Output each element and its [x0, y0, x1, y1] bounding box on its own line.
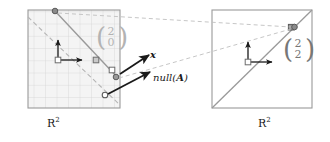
left-vector-right-paren: ) [118, 24, 128, 50]
right-vector-right-paren: ) [305, 36, 315, 62]
point-domain-top [52, 8, 58, 14]
point-image-circle [292, 24, 298, 30]
nullspace-label-matrix: A [176, 72, 184, 83]
point-domain-lower-a [109, 67, 115, 73]
codomain-space-label: R2 [258, 117, 271, 129]
point-domain-lower-b [113, 74, 119, 80]
nullspace-label-close: ) [184, 72, 188, 83]
left-origin-marker [55, 57, 61, 63]
point-domain-bottom [102, 92, 108, 98]
right-origin-marker [245, 59, 251, 65]
point-domain-mid [93, 57, 99, 63]
figure-container: x null(A) R2 R2 ( 2 0 ) ( 2 2 ) [0, 0, 330, 142]
left-domain-panel [28, 8, 120, 108]
codomain-space-exponent: 2 [266, 116, 270, 124]
vector-x-label: x [150, 50, 156, 60]
x-pointer-arrow [120, 55, 149, 74]
domain-space-label: R2 [47, 117, 60, 129]
domain-space-exponent: 2 [55, 116, 59, 124]
nullspace-label: null(A) [153, 73, 188, 83]
nullspace-label-open: null( [153, 72, 176, 83]
